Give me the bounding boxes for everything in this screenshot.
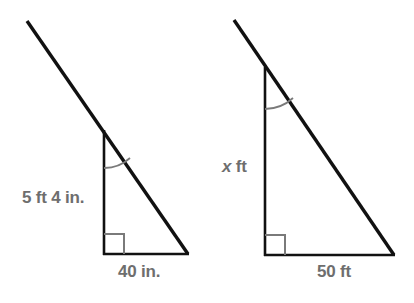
left-triangle-vertical-leg-label: 5 ft 4 in. bbox=[22, 189, 84, 206]
right-triangle-base-label: 50 ft bbox=[317, 263, 351, 280]
geometry-figure bbox=[0, 0, 414, 303]
right-triangle-hypotenuse-ray bbox=[234, 20, 394, 255]
right-triangle-leg-unit: ft bbox=[236, 157, 247, 176]
left-triangle-right-angle-marker bbox=[104, 234, 124, 254]
left-triangle-hypotenuse-ray bbox=[27, 21, 188, 254]
left-triangle bbox=[27, 21, 189, 255]
right-triangle-vertical-leg-label: x ft bbox=[222, 158, 247, 175]
right-triangle-right-angle-marker bbox=[265, 235, 285, 255]
left-triangle-base-label: 40 in. bbox=[118, 263, 160, 280]
unknown-variable-x: x bbox=[222, 157, 231, 176]
right-triangle bbox=[234, 20, 395, 256]
